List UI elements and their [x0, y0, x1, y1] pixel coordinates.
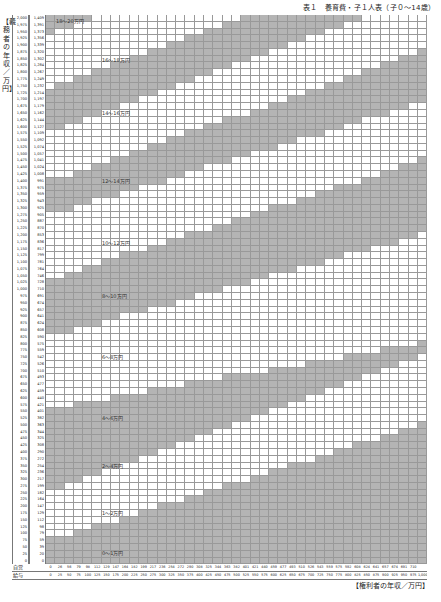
grid-cell — [185, 544, 194, 551]
grid-cell — [120, 137, 129, 144]
grid-cell — [278, 22, 287, 29]
grid-cell — [102, 218, 111, 225]
grid-cell — [46, 374, 55, 381]
grid-cell — [306, 185, 315, 192]
grid-cell — [195, 313, 204, 320]
grid-cell — [278, 191, 287, 198]
grid-cell — [390, 551, 399, 558]
grid-cell — [148, 232, 157, 239]
grid-cell — [325, 347, 334, 354]
grid-cell — [167, 374, 176, 381]
grid-cell — [241, 530, 250, 537]
grid-cell — [74, 239, 83, 246]
grid-cell — [46, 266, 55, 273]
grid-cell — [409, 69, 418, 76]
grid-cell — [195, 334, 204, 341]
x-tick: 559 — [325, 564, 334, 571]
grid-cell — [167, 22, 176, 29]
grid-cell — [409, 422, 418, 429]
grid-cell — [306, 35, 315, 42]
grid-cell — [381, 503, 390, 510]
grid-cell — [344, 198, 353, 205]
grid-cell — [213, 442, 222, 449]
grid-cell — [278, 435, 287, 442]
grid-cell — [185, 273, 194, 280]
grid-cell — [409, 463, 418, 470]
grid-cell — [325, 137, 334, 144]
y-tick-self-employed: 674 — [29, 300, 46, 307]
grid-cell — [65, 62, 74, 69]
grid-cell — [120, 191, 129, 198]
grid-cell — [83, 415, 92, 422]
grid-cell — [325, 212, 334, 219]
grid-cell — [409, 381, 418, 388]
grid-cell — [130, 374, 139, 381]
grid-cell — [167, 286, 176, 293]
grid-cell — [185, 496, 194, 503]
grid-row: 1,175836 — [12, 239, 427, 246]
grid-cell — [260, 110, 269, 117]
grid-cell — [353, 483, 362, 490]
grid-cell — [288, 544, 297, 551]
x-tick: 421 — [251, 564, 260, 571]
grid-cell — [353, 49, 362, 56]
grid-cell — [55, 151, 64, 158]
grid-cell — [74, 124, 83, 131]
grid-cell — [297, 273, 306, 280]
grid-cell — [409, 307, 418, 314]
grid-cell — [46, 178, 55, 185]
grid-cell — [297, 402, 306, 409]
grid-cell — [232, 218, 241, 225]
grid-cell — [232, 130, 241, 137]
grid-cell — [185, 130, 194, 137]
grid-cell — [344, 29, 353, 36]
grid-cell — [176, 341, 185, 348]
grid-cell — [288, 558, 297, 565]
y-tick-salaried: 1,350 — [12, 191, 29, 198]
grid-cell — [65, 490, 74, 497]
grid-cell — [204, 90, 213, 97]
grid-cell — [223, 341, 232, 348]
grid-cell — [55, 496, 64, 503]
grid-cell — [260, 286, 269, 293]
grid-cell — [148, 341, 157, 348]
grid-cell — [381, 293, 390, 300]
grid-cell — [195, 266, 204, 273]
y-tick-self-employed: 421 — [29, 402, 46, 409]
grid-cell — [418, 62, 427, 69]
grid-cell — [195, 341, 204, 348]
y-tick-self-employed: 129 — [29, 510, 46, 517]
grid-cell — [260, 117, 269, 124]
grid-cell — [344, 225, 353, 232]
grid-cell — [111, 530, 120, 537]
grid-cell — [344, 320, 353, 327]
grid-cell — [120, 157, 129, 164]
grid-cell — [418, 252, 427, 259]
grid-cell — [83, 449, 92, 456]
grid-cell — [353, 29, 362, 36]
grid-cell — [102, 558, 111, 565]
grid-cell — [297, 151, 306, 158]
grid-cell — [65, 185, 74, 192]
grid-cell — [102, 137, 111, 144]
grid-cell — [362, 29, 371, 36]
grid-cell — [130, 476, 139, 483]
grid-cell — [334, 49, 343, 56]
grid-cell — [269, 496, 278, 503]
grid-cell — [251, 137, 260, 144]
grid-cell — [130, 83, 139, 90]
grid-cell — [176, 293, 185, 300]
grid-cell — [390, 402, 399, 409]
grid-cell — [297, 327, 306, 334]
grid-cell — [371, 374, 380, 381]
grid-cell — [223, 503, 232, 510]
grid-cell — [213, 239, 222, 246]
grid-cell — [371, 232, 380, 239]
x-tick: 975 — [409, 572, 418, 579]
grid-cell — [334, 96, 343, 103]
grid-cell — [241, 212, 250, 219]
grid-cell — [344, 496, 353, 503]
grid-cell — [399, 388, 408, 395]
grid-cell — [297, 300, 306, 307]
grid-cell — [325, 530, 334, 537]
